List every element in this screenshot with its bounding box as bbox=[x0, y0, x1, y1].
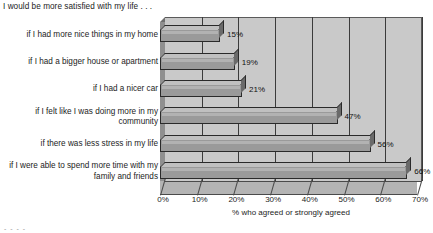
x-axis: 0%10%20%30%40%50%60%70% bbox=[160, 195, 433, 207]
bar-top-face bbox=[160, 53, 238, 58]
bar-value-label-2: 21% bbox=[249, 85, 265, 94]
gridline-30 bbox=[275, 17, 276, 181]
x-tick-label-40: 40% bbox=[302, 195, 318, 205]
bar-value-label-1: 19% bbox=[242, 58, 258, 67]
category-label-0: if I had more nice things in my home bbox=[0, 30, 158, 41]
gridline-60 bbox=[385, 17, 386, 181]
footer-artifact: - - - - bbox=[4, 225, 26, 232]
bar-value-label-5: 66% bbox=[414, 167, 430, 176]
category-label-3: if I felt like I was doing more in my co… bbox=[0, 107, 158, 128]
plot-area: 15%19%21%47%56%66% bbox=[160, 17, 422, 195]
x-tick-label-60: 60% bbox=[375, 195, 391, 205]
chart-title: I would be more satisfied with my life .… bbox=[3, 2, 152, 12]
bar-top-face bbox=[160, 162, 410, 167]
bar-top-face bbox=[160, 135, 374, 140]
x-tick-label-10: 10% bbox=[192, 195, 208, 205]
category-label-4: if there was less stress in my life bbox=[0, 139, 158, 150]
x-axis-title: % who agreed or strongly agreed bbox=[160, 208, 422, 218]
gridline-20 bbox=[238, 17, 239, 181]
x-tick-label-70: 70% bbox=[412, 195, 428, 205]
bar-0 bbox=[160, 29, 220, 42]
x-tick-label-30: 30% bbox=[265, 195, 281, 205]
bar-2 bbox=[160, 84, 242, 97]
category-axis-labels: if I had more nice things in my homeif I… bbox=[0, 17, 158, 195]
gridline-40 bbox=[312, 17, 313, 181]
bar-1 bbox=[160, 57, 235, 70]
bar-top-face bbox=[160, 25, 223, 30]
category-label-1: if I had a bigger house or apartment bbox=[0, 57, 158, 68]
bar-top-face bbox=[160, 80, 245, 85]
bar-highlight bbox=[162, 59, 233, 62]
bar-highlight bbox=[162, 113, 336, 116]
bar-highlight bbox=[162, 141, 369, 144]
bar-3 bbox=[160, 111, 338, 124]
bar-4 bbox=[160, 139, 371, 152]
bar-value-label-0: 15% bbox=[227, 30, 243, 39]
bar-highlight bbox=[162, 31, 218, 34]
x-tick-label-20: 20% bbox=[228, 195, 244, 205]
bar-value-label-3: 47% bbox=[345, 112, 361, 121]
bar-top-face bbox=[160, 107, 341, 112]
category-label-5: if I were able to spend more time with m… bbox=[0, 161, 158, 182]
gridline-70 bbox=[422, 17, 423, 181]
category-label-2: if I had a nicer car bbox=[0, 84, 158, 95]
bar-5 bbox=[160, 166, 407, 179]
bar-value-label-4: 56% bbox=[378, 140, 394, 149]
bar-highlight bbox=[162, 86, 240, 89]
bar-highlight bbox=[162, 168, 405, 171]
x-tick-label-50: 50% bbox=[339, 195, 355, 205]
x-tick-label-0: 0% bbox=[157, 195, 169, 205]
gridline-50 bbox=[349, 17, 350, 181]
chart-root: I would be more satisfied with my life .… bbox=[0, 0, 433, 233]
